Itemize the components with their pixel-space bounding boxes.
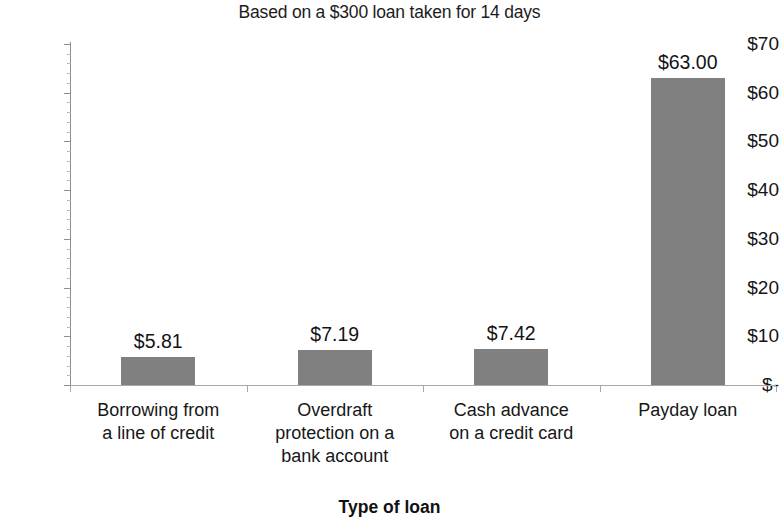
y-axis-tick-mark bbox=[64, 239, 71, 240]
y-axis-minor-tick-mark bbox=[67, 63, 71, 64]
x-axis-tick-mark bbox=[600, 386, 601, 392]
x-axis-tick-mark bbox=[247, 386, 248, 392]
bar[interactable] bbox=[651, 78, 725, 385]
y-axis-tick-mark bbox=[64, 288, 71, 289]
y-axis-minor-tick-mark bbox=[67, 297, 71, 298]
y-axis-minor-tick-mark bbox=[67, 278, 71, 279]
bar[interactable] bbox=[474, 349, 548, 385]
chart-title: Based on a $300 loan taken for 14 days bbox=[0, 2, 779, 23]
y-axis-tick-label: $60 bbox=[719, 82, 779, 104]
bar-value-label: $63.00 bbox=[618, 51, 758, 74]
x-axis-category-label: Cash advanceon a credit card bbox=[423, 399, 600, 445]
y-axis-minor-tick-mark bbox=[67, 73, 71, 74]
y-axis-tick-mark bbox=[64, 141, 71, 142]
y-axis-tick-label: $10 bbox=[719, 325, 779, 347]
y-axis-tick-label: $50 bbox=[719, 130, 779, 152]
bar-value-label: $7.19 bbox=[265, 323, 405, 346]
x-axis-tick-mark bbox=[70, 386, 71, 392]
y-axis-minor-tick-mark bbox=[67, 346, 71, 347]
y-axis-tick-label: $40 bbox=[719, 179, 779, 201]
x-axis-category-label: Overdraftprotection on abank account bbox=[247, 399, 424, 468]
y-axis-minor-tick-mark bbox=[67, 200, 71, 201]
x-axis-tick-mark bbox=[776, 386, 777, 392]
y-axis-minor-tick-mark bbox=[67, 54, 71, 55]
y-axis-minor-tick-mark bbox=[67, 210, 71, 211]
y-axis-minor-tick-mark bbox=[67, 249, 71, 250]
y-axis-minor-tick-mark bbox=[67, 132, 71, 133]
bar[interactable] bbox=[298, 350, 372, 385]
x-axis-category-label-line: Overdraft bbox=[247, 399, 424, 422]
y-axis-minor-tick-mark bbox=[67, 219, 71, 220]
y-axis-minor-tick-mark bbox=[67, 102, 71, 103]
y-axis-minor-tick-mark bbox=[67, 268, 71, 269]
x-axis-category-label: Borrowing froma line of credit bbox=[70, 399, 247, 445]
y-axis-minor-tick-mark bbox=[67, 151, 71, 152]
y-axis-minor-tick-mark bbox=[67, 307, 71, 308]
bar-value-label: $5.81 bbox=[88, 330, 228, 353]
x-axis-category-label-line: Payday loan bbox=[600, 399, 777, 422]
bar-chart: Based on a $300 loan taken for 14 days $… bbox=[0, 0, 779, 531]
bar[interactable] bbox=[121, 357, 195, 385]
x-axis-category-label-line: bank account bbox=[247, 445, 424, 468]
x-axis-category-label-line: Borrowing from bbox=[70, 399, 247, 422]
y-axis-tick-label: $20 bbox=[719, 277, 779, 299]
y-axis-tick-mark bbox=[64, 336, 71, 337]
y-axis-minor-tick-mark bbox=[67, 180, 71, 181]
x-axis-category-label-line: a line of credit bbox=[70, 422, 247, 445]
x-axis-category-label-line: protection on a bbox=[247, 422, 424, 445]
bar-value-label: $7.42 bbox=[441, 322, 581, 345]
y-axis-tick-mark bbox=[64, 44, 71, 45]
y-axis-tick-mark bbox=[64, 93, 71, 94]
y-axis-minor-tick-mark bbox=[67, 327, 71, 328]
y-axis-minor-tick-mark bbox=[67, 258, 71, 259]
x-axis-category-label-line: Cash advance bbox=[423, 399, 600, 422]
x-axis-title: Type of loan bbox=[0, 497, 779, 518]
x-axis-category-label-line: on a credit card bbox=[423, 422, 600, 445]
y-axis-minor-tick-mark bbox=[67, 366, 71, 367]
y-axis-minor-tick-mark bbox=[67, 122, 71, 123]
y-axis-minor-tick-mark bbox=[67, 161, 71, 162]
y-axis-minor-tick-mark bbox=[67, 83, 71, 84]
y-axis-minor-tick-mark bbox=[67, 171, 71, 172]
x-axis-tick-mark bbox=[423, 386, 424, 392]
x-axis-category-label: Payday loan bbox=[600, 399, 777, 422]
y-axis-minor-tick-mark bbox=[67, 317, 71, 318]
y-axis-minor-tick-mark bbox=[67, 229, 71, 230]
y-axis-tick-label: $30 bbox=[719, 228, 779, 250]
y-axis-minor-tick-mark bbox=[67, 375, 71, 376]
y-axis-tick-mark bbox=[64, 190, 71, 191]
y-axis-minor-tick-mark bbox=[67, 356, 71, 357]
y-axis-minor-tick-mark bbox=[67, 112, 71, 113]
